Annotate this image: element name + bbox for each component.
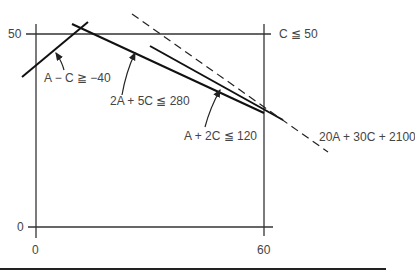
two-a-five-c-pointer [122, 53, 135, 95]
linear-program-diagram: 50 0 0 60 C ≦ 50 A − C ≧ −40 2A + 5C ≦ 2… [0, 0, 415, 272]
a-minus-c-pointer [56, 53, 64, 70]
y-tick-50: 50 [8, 27, 22, 41]
a-two-c-line [150, 46, 283, 120]
a-two-c-pointer [205, 90, 220, 127]
a-minus-c-line [22, 22, 88, 77]
c-max-label: C ≦ 50 [279, 27, 318, 41]
y-tick-0: 0 [17, 220, 24, 234]
x-tick-0: 0 [32, 243, 39, 257]
a-minus-c-label: A − C ≧ −40 [44, 71, 111, 85]
a-two-c-label: A + 2C ≦ 120 [184, 129, 257, 143]
x-tick-60: 60 [257, 243, 271, 257]
objective-label: 20A + 30C + 2100 [319, 130, 415, 144]
two-a-five-c-label: 2A + 5C ≦ 280 [110, 94, 190, 108]
